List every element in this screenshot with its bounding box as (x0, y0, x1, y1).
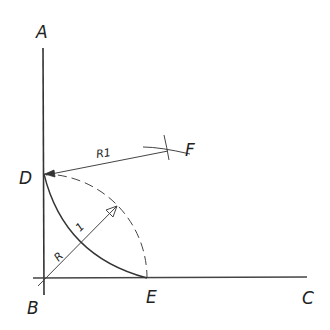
line-bc (33, 277, 307, 278)
label-d: D (19, 168, 32, 188)
label-b: B (27, 298, 39, 318)
label-radius-r: R (52, 250, 67, 265)
label-r1: R1 (95, 146, 111, 161)
label-c: C (302, 288, 314, 308)
construction-diagram: A D B E C F R1 R 1 (0, 0, 330, 330)
intersection-arc-2 (164, 135, 169, 160)
line-ab (43, 48, 44, 295)
radius-r-line (38, 206, 117, 286)
label-a: A (35, 22, 48, 42)
radius-r1-arrowhead (45, 170, 55, 177)
label-radius-r-suffix: 1 (73, 220, 87, 234)
label-f: F (185, 140, 195, 160)
label-e: E (146, 287, 157, 307)
